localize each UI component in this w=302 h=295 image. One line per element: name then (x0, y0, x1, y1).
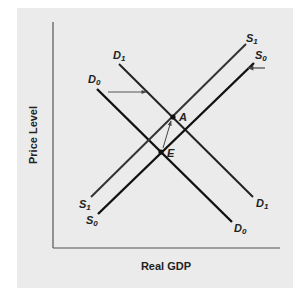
point-e-label: E (167, 147, 175, 159)
point-e (158, 149, 163, 154)
point-a (170, 114, 175, 119)
diagram-background (17, 8, 293, 288)
ad-as-diagram: Price Level Real GDP A E D1 D0 D1 D0 S1 … (0, 0, 302, 295)
x-axis-label: Real GDP (141, 260, 191, 272)
y-axis-label: Price Level (27, 106, 39, 164)
point-a-label: A (178, 111, 187, 123)
